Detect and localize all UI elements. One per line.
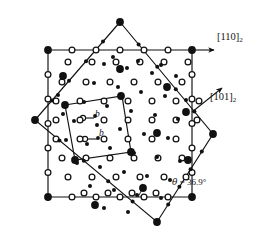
coincidence-site <box>184 156 192 164</box>
square-edge-node <box>200 150 204 154</box>
square-edge-node <box>189 121 195 127</box>
coincidence-site <box>182 108 190 116</box>
square-edge-node <box>117 194 123 200</box>
square-edge-node <box>141 47 147 53</box>
lattice-1-atom <box>105 104 109 108</box>
lattice-2-atom <box>125 117 131 123</box>
square-edge-node <box>57 138 61 142</box>
square-edge-node <box>141 194 147 200</box>
lattice-2-atom <box>153 190 159 196</box>
square-corner-node <box>31 116 39 124</box>
square-edge-node <box>189 145 195 151</box>
square-edge-node <box>84 59 88 63</box>
square-corner-node <box>44 46 52 54</box>
square-corner-node <box>188 46 196 54</box>
square-edge-node <box>45 170 51 176</box>
lattice-2-atom <box>131 79 137 85</box>
lattice-2-atom <box>83 79 89 85</box>
lattice-1-atom <box>112 188 116 192</box>
lattice-1-points <box>56 55 188 214</box>
square-edge-node <box>69 194 75 200</box>
square-edge-node <box>155 65 159 69</box>
square-edge-node <box>166 202 170 206</box>
lattice-1-atom <box>129 109 133 113</box>
lattice-1-atom <box>174 74 178 78</box>
burgers-vector-2 <box>82 136 100 141</box>
lattice-2-atom <box>125 136 131 142</box>
square-edge-node <box>189 167 193 171</box>
lattice-2-atom <box>77 98 83 104</box>
square-corner-node <box>116 18 124 26</box>
square-edge-node <box>189 72 195 78</box>
square-edge-node <box>45 96 51 102</box>
lattice-1-atom <box>102 206 106 210</box>
lattice-2-atom <box>173 136 179 142</box>
lattice-2-atom <box>59 79 65 85</box>
lattice-1-atom <box>159 63 163 67</box>
lattice-2-atom <box>107 79 113 85</box>
direction-label-110: [110]2 <box>217 32 243 44</box>
lattice-2-atom <box>59 155 65 161</box>
square-edge-node <box>69 47 75 53</box>
lattice-1-atom <box>92 81 96 85</box>
square-edge-node <box>165 194 171 200</box>
lattice-2-atom <box>77 117 83 123</box>
square-edge-node <box>67 79 71 83</box>
lattice-1-atom <box>122 170 126 174</box>
lattice-1-atom <box>126 210 130 214</box>
coincidence-site <box>91 201 99 209</box>
coincidence-site <box>163 83 171 91</box>
lattice-1-atom <box>135 193 139 197</box>
lattice-1-atom <box>102 62 106 66</box>
lattice-1-atom <box>150 71 154 75</box>
lattice-2-atom <box>53 117 59 123</box>
lattice-1-atom <box>139 90 143 94</box>
lattice-1-atom <box>118 127 122 131</box>
lattice-1-atom <box>61 112 65 116</box>
lattice-1-atom <box>56 93 60 97</box>
lattice-2-atom <box>107 155 113 161</box>
square-edge-node <box>189 96 195 102</box>
lattice-1-atom <box>145 174 149 178</box>
lattice-2-atom <box>173 98 179 104</box>
lattice-1-atom <box>125 66 129 70</box>
coincidence-site <box>71 156 79 164</box>
lattice-2-atom <box>149 98 155 104</box>
square-edge-node <box>117 47 123 53</box>
lattice-2-atom <box>101 117 107 123</box>
square-edge-node <box>45 72 51 78</box>
lattice-1-atom <box>159 196 163 200</box>
lattice-1-atom <box>136 59 140 63</box>
lattice-2-atom <box>89 174 95 180</box>
square-edge-node <box>174 87 178 91</box>
lattice-1-atom <box>153 113 157 117</box>
lattice-1-atom <box>176 117 180 121</box>
lattice-2-atom <box>131 155 137 161</box>
lattice-2-atom <box>81 190 87 196</box>
lattice-1-atom <box>72 119 76 123</box>
lattice-1-atom <box>178 159 182 163</box>
lattice-1-atom <box>95 123 99 127</box>
square-edge-node <box>165 47 171 53</box>
lattice-2-atom <box>125 98 131 104</box>
coincidence-site <box>59 72 67 80</box>
square-edge-node <box>106 179 110 183</box>
square-edge-node <box>82 159 86 163</box>
square-edge-node <box>131 200 135 204</box>
burgers-label-2: b <box>99 129 104 139</box>
lattice-2-atom <box>161 174 167 180</box>
lattice-1-atom <box>116 85 120 89</box>
lattice-2-atom <box>113 59 119 65</box>
lattice-1-atom <box>111 55 115 59</box>
lattice-2-atom <box>185 59 191 65</box>
coincidence-site <box>116 65 124 73</box>
square-corner-node <box>44 193 52 201</box>
lattice-2-atom <box>129 190 135 196</box>
lattice-2-atom <box>149 136 155 142</box>
lattice-2-atom <box>113 174 119 180</box>
coincidence-site <box>117 92 125 100</box>
csl-figure: [110]2 [101]2 θ = 36.9° b b <box>0 0 276 242</box>
lattice-2-atom <box>149 117 155 123</box>
rotated-square-outline <box>35 22 213 222</box>
square-edge-node <box>192 110 196 114</box>
